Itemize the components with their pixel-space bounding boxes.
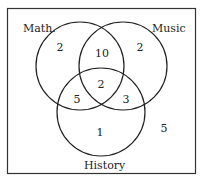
region-count-outside: 5 [161,122,168,135]
region-count-music-history: 3 [123,93,130,106]
region-count-math-music: 10 [95,47,109,60]
set-label: Math. [23,22,56,35]
region-count-math-history: 5 [74,93,81,106]
region-count-math-only: 2 [57,41,64,54]
region-count-history-only: 1 [97,126,104,139]
venn-diagram: Math.MusicHistory 210225315 [0,0,204,182]
region-count-all-three: 2 [98,78,105,91]
set-label: History [84,159,126,172]
set-label: Music [152,22,186,35]
region-count-music-only: 2 [137,41,144,54]
